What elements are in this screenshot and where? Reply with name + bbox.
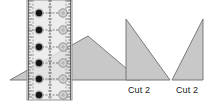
diagram-canvas: Cut 2 Cut 2 <box>0 0 215 106</box>
marker-dot-light <box>59 26 67 34</box>
cut-label-middle: Cut 2 <box>128 85 150 95</box>
marker-dot-light <box>59 59 67 67</box>
marker-dot-light <box>59 43 67 51</box>
marker-dot-light <box>59 9 67 17</box>
marker-dot-light <box>59 91 67 99</box>
marker-dot-dark <box>34 74 43 83</box>
cut-label-right: Cut 2 <box>176 85 198 95</box>
marker-dot-dark <box>34 8 43 17</box>
marker-dot-dark <box>34 42 43 51</box>
marker-dot-dark <box>34 25 43 34</box>
marker-dot-dark <box>34 58 43 67</box>
cut-triangle-right <box>172 19 203 80</box>
marker-dot-dark <box>34 90 43 99</box>
marker-dot-light <box>59 75 67 83</box>
cut-triangle-middle <box>126 19 170 80</box>
